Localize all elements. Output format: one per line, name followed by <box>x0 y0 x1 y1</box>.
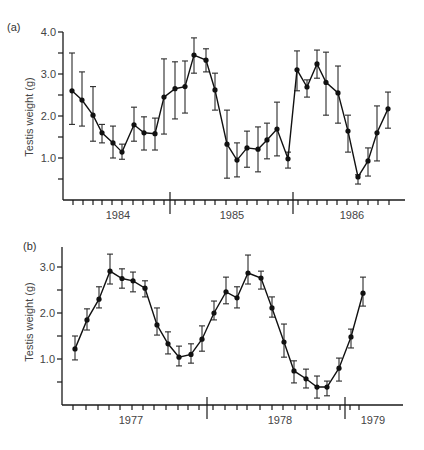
data-point <box>385 106 390 111</box>
data-point <box>365 158 370 163</box>
panel-label: (a) <box>7 21 20 33</box>
year-label: 1979 <box>361 414 385 426</box>
data-point <box>324 384 329 389</box>
data-point <box>212 87 217 92</box>
data-point <box>107 269 112 274</box>
data-point <box>172 86 177 91</box>
data-point <box>72 346 77 351</box>
series-line <box>75 271 363 387</box>
data-point <box>176 355 181 360</box>
data-point <box>335 90 340 95</box>
data-point <box>336 366 341 371</box>
data-point <box>234 158 239 163</box>
data-point <box>374 130 379 135</box>
data-point <box>152 131 157 136</box>
y-tick-label: 3.0 <box>41 68 56 80</box>
year-label: 1977 <box>119 414 143 426</box>
y-tick-label: 2.0 <box>40 307 55 319</box>
data-point <box>264 137 269 142</box>
data-point <box>244 145 249 150</box>
data-point <box>223 289 228 294</box>
data-point <box>355 174 360 179</box>
panel-a: (a)Testis weight (g)1.02.03.04.019841985… <box>7 21 405 221</box>
data-point <box>161 95 166 100</box>
data-point <box>199 337 204 342</box>
y-axis-label: Testis weight (g) <box>23 77 35 156</box>
year-label: 1986 <box>340 209 364 221</box>
data-point <box>182 84 187 89</box>
data-point <box>188 352 193 357</box>
data-point <box>131 122 136 127</box>
data-point <box>291 368 296 373</box>
y-tick-label: 3.0 <box>40 261 55 273</box>
data-point <box>323 80 328 85</box>
y-axis-label: Testis weight (g) <box>23 282 35 361</box>
data-point <box>165 341 170 346</box>
data-point <box>130 278 135 283</box>
data-point <box>191 53 196 58</box>
panel-label: (b) <box>23 240 36 252</box>
data-point <box>258 275 263 280</box>
data-point <box>110 140 115 145</box>
data-point <box>141 130 146 135</box>
data-point <box>96 297 101 302</box>
year-label: 1985 <box>220 209 244 221</box>
data-point <box>234 295 239 300</box>
data-point <box>303 376 308 381</box>
data-point <box>274 126 279 131</box>
data-point <box>119 150 124 155</box>
data-point <box>314 384 319 389</box>
data-point <box>79 97 84 102</box>
data-point <box>90 113 95 118</box>
data-point <box>224 142 229 147</box>
y-tick-label: 4.0 <box>41 26 56 38</box>
series-line <box>72 55 388 177</box>
testis-weight-chart: (a)Testis weight (g)1.02.03.04.019841985… <box>0 0 424 450</box>
year-label: 1978 <box>268 414 292 426</box>
y-tick-label: 2.0 <box>41 110 56 122</box>
data-point <box>360 291 365 296</box>
data-point <box>99 130 104 135</box>
panel-b: (b)Testis weight (g)1.02.03.019771978197… <box>23 240 403 426</box>
data-point <box>69 88 74 93</box>
data-point <box>84 317 89 322</box>
data-point <box>314 61 319 66</box>
data-point <box>203 58 208 63</box>
data-point <box>294 67 299 72</box>
data-point <box>142 286 147 291</box>
data-point <box>119 276 124 281</box>
data-point <box>211 310 216 315</box>
data-point <box>255 147 260 152</box>
data-point <box>281 339 286 344</box>
y-tick-label: 1.0 <box>41 152 56 164</box>
data-point <box>154 322 159 327</box>
data-point <box>245 270 250 275</box>
year-label: 1984 <box>106 209 130 221</box>
data-point <box>345 129 350 134</box>
data-point <box>304 84 309 89</box>
data-point <box>348 334 353 339</box>
data-point <box>285 156 290 161</box>
figure: (a)Testis weight (g)1.02.03.04.019841985… <box>0 0 424 450</box>
data-point <box>269 305 274 310</box>
y-tick-label: 1.0 <box>40 353 55 365</box>
